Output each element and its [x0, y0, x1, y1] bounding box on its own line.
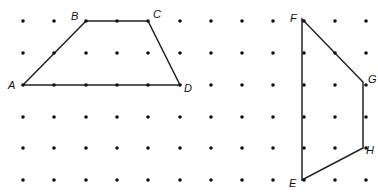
grid-dot — [209, 178, 213, 182]
grid-dot — [21, 51, 25, 55]
grid-dot — [146, 51, 150, 55]
grid-dot — [333, 146, 337, 150]
grid-dot — [84, 83, 88, 87]
grid-dot — [178, 178, 182, 182]
grid-dot — [364, 178, 368, 182]
grid-dot — [240, 19, 244, 23]
grid-dot — [52, 146, 56, 150]
grid-dot — [240, 51, 244, 55]
grid-dot — [52, 51, 56, 55]
vertex-label-a: A — [7, 79, 15, 91]
grid-dot — [178, 83, 182, 87]
grid-dot — [115, 178, 119, 182]
grid-dot — [52, 83, 56, 87]
grid-dot — [271, 83, 275, 87]
grid-dot — [333, 178, 337, 182]
grid-dot — [302, 146, 306, 150]
dot-grid-diagram: ABCDFGHE — [0, 0, 378, 192]
grid-dot — [178, 115, 182, 119]
grid-dot — [178, 146, 182, 150]
grid-dot — [240, 146, 244, 150]
grid-dot — [84, 115, 88, 119]
grid-dot — [84, 146, 88, 150]
grid-dot — [364, 51, 368, 55]
grid-dot — [209, 19, 213, 23]
grid-dot — [146, 83, 150, 87]
grid-dot — [52, 178, 56, 182]
grid-dot — [21, 19, 25, 23]
grid-dot — [209, 115, 213, 119]
grid-dot — [271, 19, 275, 23]
grid-dot — [115, 51, 119, 55]
grid-dot — [333, 83, 337, 87]
grid-dot — [302, 178, 306, 182]
vertex-label-c: C — [153, 8, 161, 20]
grid-dot — [84, 51, 88, 55]
grid-dot — [302, 115, 306, 119]
grid-dot — [240, 115, 244, 119]
grid-dot — [21, 178, 25, 182]
grid-dot — [209, 146, 213, 150]
grid-dot — [333, 19, 337, 23]
grid-dot — [178, 51, 182, 55]
grid-dot — [240, 178, 244, 182]
grid-dot — [84, 19, 88, 23]
grid-dot — [302, 83, 306, 87]
grid-dot — [302, 51, 306, 55]
grid-dot — [209, 51, 213, 55]
grid-dot — [84, 178, 88, 182]
vertex-label-f: F — [290, 12, 298, 24]
grid-dot — [364, 115, 368, 119]
vertex-label-b: B — [71, 10, 78, 22]
grid-dot — [146, 146, 150, 150]
grid-dot — [302, 19, 306, 23]
grid-dot — [21, 83, 25, 87]
grid-dot — [146, 19, 150, 23]
trapezoid-abcd — [23, 21, 180, 85]
grid-dot — [209, 83, 213, 87]
grid-dot — [333, 51, 337, 55]
grid-dot — [271, 146, 275, 150]
grid-dot — [21, 146, 25, 150]
grid-dot — [240, 83, 244, 87]
grid-dot — [146, 115, 150, 119]
grid-dot — [333, 115, 337, 119]
grid-dot — [115, 83, 119, 87]
grid-dot — [271, 115, 275, 119]
grid-dot — [21, 115, 25, 119]
grid-dot — [178, 19, 182, 23]
vertex-label-g: G — [368, 73, 377, 85]
vertex-label-d: D — [184, 82, 192, 94]
grid-dot — [271, 51, 275, 55]
grid-dot — [52, 19, 56, 23]
quadrilateral-efgh — [302, 19, 363, 180]
grid-dot — [115, 19, 119, 23]
grid-dot — [271, 178, 275, 182]
grid-dot — [52, 115, 56, 119]
grid-dot — [115, 146, 119, 150]
vertex-label-e: E — [289, 177, 297, 189]
grid-dot — [115, 115, 119, 119]
grid-dot — [364, 19, 368, 23]
grid-dot — [146, 178, 150, 182]
vertex-label-h: H — [366, 144, 374, 156]
